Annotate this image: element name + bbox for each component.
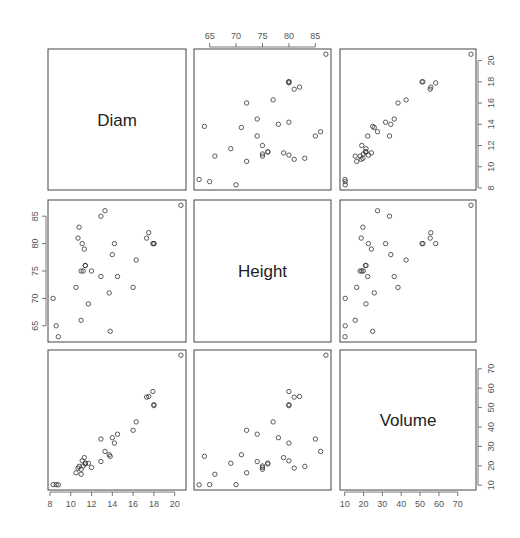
data-point [297,85,301,89]
data-point [287,120,291,124]
data-point [239,125,243,129]
tick-label: 8 [47,499,52,509]
data-point [260,143,264,147]
data-point [151,389,155,393]
tick-label: 40 [396,499,406,509]
data-point [361,225,365,229]
data-point [213,154,217,158]
data-point [255,117,259,121]
data-point [383,241,387,245]
data-point [213,472,217,476]
panel-frame [48,200,186,342]
data-point [103,449,107,453]
data-point [110,252,114,256]
data-point [131,285,135,289]
data-point [375,209,379,213]
tick-label: 16 [128,499,138,509]
data-point [89,465,93,469]
x-axis-height: 6570758085 [205,31,321,47]
tick-label: 30 [486,441,496,451]
tick-label: 14 [486,119,496,129]
data-point [434,241,438,245]
tick-label: 70 [30,293,40,303]
tick-label: 75 [257,31,267,41]
data-point [343,296,347,300]
data-point [343,335,347,339]
tick-label: 20 [359,499,369,509]
y-axis-diam: 8101214161820 [478,56,496,191]
data-point [202,124,206,128]
data-point [313,437,317,441]
data-point [303,464,307,468]
data-point [108,329,112,333]
data-point [179,353,183,357]
tick-label: 40 [486,422,496,432]
tick-label: 10 [486,162,496,172]
data-point [134,420,138,424]
data-point [107,291,111,295]
tick-label: 75 [30,266,40,276]
tick-label: 12 [87,499,97,509]
tick-label: 30 [377,499,387,509]
tick-label: 60 [486,383,496,393]
tick-label: 85 [30,211,40,221]
data-point [131,428,135,432]
data-point [355,159,359,163]
tick-label: 80 [284,31,294,41]
tick-label: 14 [107,499,117,509]
data-point [266,150,270,154]
panel-frame [194,49,331,190]
tick-label: 60 [434,499,444,509]
data-point [99,437,103,441]
data-point [255,459,259,463]
data-point [229,461,233,465]
data-point [76,236,80,240]
data-point [82,247,86,251]
data-point [234,183,238,187]
panel-diam-vs-volume [340,49,476,190]
panel-volume-vs-volume: Volume [340,350,476,490]
data-point [429,231,433,235]
data-point [207,179,211,183]
data-point [287,153,291,157]
data-point [147,231,151,235]
y-axis-volume: 10203040506070 [478,364,496,490]
data-point [79,472,83,476]
data-point [276,436,280,440]
tick-label: 20 [170,499,180,509]
data-point [74,285,78,289]
panel-frame [48,350,186,490]
data-point [364,302,368,306]
tick-label: 20 [486,461,496,471]
data-point [364,147,368,151]
data-point [387,134,391,138]
data-point [244,471,248,475]
data-point [292,157,296,161]
data-point [103,209,107,213]
data-point [343,324,347,328]
data-point [469,52,473,56]
data-point [115,274,119,278]
data-point [318,449,322,453]
variable-label: Volume [380,411,437,430]
panel-frame [194,350,331,490]
data-point [244,101,248,105]
data-point [324,52,328,56]
data-point [303,156,307,160]
data-point [366,134,370,138]
data-point [112,241,116,245]
data-point [281,151,285,155]
panel-diam-vs-diam: Diam [48,49,186,190]
data-point [112,441,116,445]
tick-label: 70 [453,499,463,509]
x-axis-diam: 8101214161820 [47,492,179,509]
panel-height-vs-diam [48,200,186,342]
panel-frame [340,200,476,342]
tick-label: 50 [415,499,425,509]
data-point [392,117,396,121]
panel-frame [340,49,476,190]
data-point [404,98,408,102]
data-point [51,296,55,300]
data-point [287,441,291,445]
variable-label: Height [238,262,287,281]
